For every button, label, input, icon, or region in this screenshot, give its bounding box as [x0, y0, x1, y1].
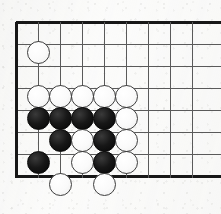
black-stone-d5[interactable]	[71, 107, 94, 130]
white-stone-b4[interactable]	[27, 85, 50, 108]
white-stone-c8[interactable]	[49, 173, 72, 196]
white-stone-f5[interactable]	[115, 107, 138, 130]
black-stone-b7[interactable]	[27, 151, 50, 174]
black-stone-e6[interactable]	[93, 129, 116, 152]
black-stone-c6[interactable]	[49, 129, 72, 152]
white-stone-d6[interactable]	[71, 129, 94, 152]
white-stone-f7[interactable]	[115, 151, 138, 174]
white-stone-f6[interactable]	[115, 129, 138, 152]
go-board[interactable]: Go board corner position	[0, 0, 221, 214]
white-stone-e8[interactable]	[93, 173, 116, 196]
black-stone-e5[interactable]	[93, 107, 116, 130]
white-stone-b2[interactable]	[27, 41, 50, 64]
stone-layer[interactable]	[0, 0, 221, 214]
white-stone-f4[interactable]	[115, 85, 138, 108]
black-stone-e7[interactable]	[93, 151, 116, 174]
white-stone-c4[interactable]	[49, 85, 72, 108]
black-stone-b5[interactable]	[27, 107, 50, 130]
white-stone-d7[interactable]	[71, 151, 94, 174]
black-stone-c5[interactable]	[49, 107, 72, 130]
white-stone-d4[interactable]	[71, 85, 94, 108]
white-stone-e4[interactable]	[93, 85, 116, 108]
